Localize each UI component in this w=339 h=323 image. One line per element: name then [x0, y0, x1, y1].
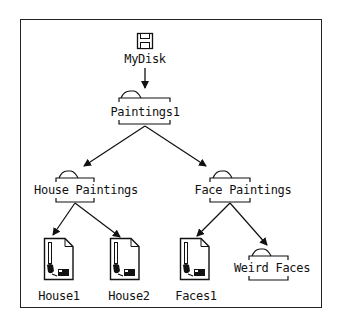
node-label-faces1[interactable]: Faces1 [175, 290, 217, 302]
paint-document-icon-house1 [45, 239, 74, 280]
floppy-disk-icon [138, 34, 153, 49]
node-label-face-paintings[interactable]: Face Paintings [195, 184, 292, 196]
node-label-house2[interactable]: House2 [108, 290, 150, 302]
paint-document-icon-house2 [111, 239, 140, 280]
node-label-house-paintings[interactable]: House Paintings [34, 184, 138, 196]
node-label-weird-faces[interactable]: Weird Faces [234, 262, 310, 274]
node-label-house1[interactable]: House1 [38, 290, 80, 302]
paint-document-icon-faces1 [181, 239, 210, 280]
node-label-mydisk[interactable]: MyDisk [124, 53, 166, 65]
node-label-paintings1[interactable]: Paintings1 [110, 106, 179, 118]
